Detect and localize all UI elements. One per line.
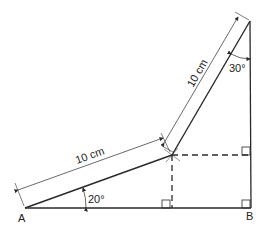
dimension-extension-a [15,183,24,206]
angle-arc-a [83,188,86,208]
angle-label-30: 30° [229,62,246,74]
dimension-line-upper [164,17,238,143]
segment-joint-top [172,21,250,155]
dimension-extension-j1 [161,133,170,152]
angle-arc-top [231,54,250,59]
label-a: A [18,212,26,224]
length-label-upper: 10 cm [184,57,209,89]
geometry-diagram: A B 20° 30° 10 cm 10 cm [0,0,269,232]
vertical-line-b-top [250,21,251,208]
dimension-line-lower [18,138,163,190]
length-label-lower: 10 cm [74,144,106,166]
label-b: B [246,210,253,222]
angle-label-20: 20° [88,193,105,205]
right-angle-marker-mid-right [242,147,250,155]
right-angle-marker-bottom-right [242,200,250,208]
right-angle-marker-bottom-mid [162,200,170,208]
